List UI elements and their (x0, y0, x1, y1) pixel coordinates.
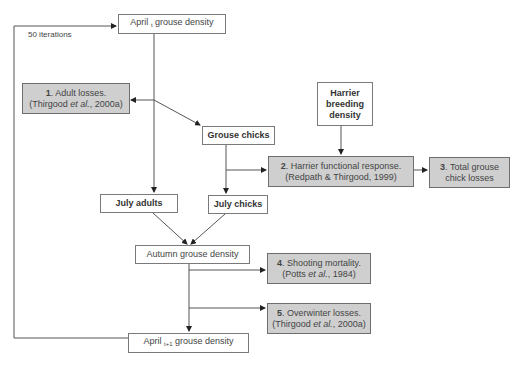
loop-label: 50 iterations (28, 30, 72, 39)
grouse-chicks-node: Grouse chicks (202, 126, 275, 145)
overwinter-losses-node: 5. Overwinter losses. (Thirgood et al., … (267, 303, 371, 334)
total-chick-losses-node: 3. Total grouse chick losses (429, 157, 510, 188)
april-t1-density-node: April t+1 grouse density (128, 333, 249, 353)
harrier-functional-response-node: 2. Harrier functional response. (Redpath… (268, 156, 414, 187)
july-chicks-node: July chicks (208, 195, 268, 214)
adult-losses-node: 1. Adult losses. (Thirgood et al., 2000a… (22, 83, 130, 114)
april-t-density-node: April t grouse density (118, 14, 226, 34)
autumn-density-node: Autumn grouse density (135, 245, 250, 264)
shooting-mortality-node: 4. Shooting mortality. (Potts et al., 19… (267, 253, 371, 284)
july-adults-node: July adults (100, 194, 178, 213)
harrier-breeding-density-node: Harrier breeding density (317, 82, 373, 126)
